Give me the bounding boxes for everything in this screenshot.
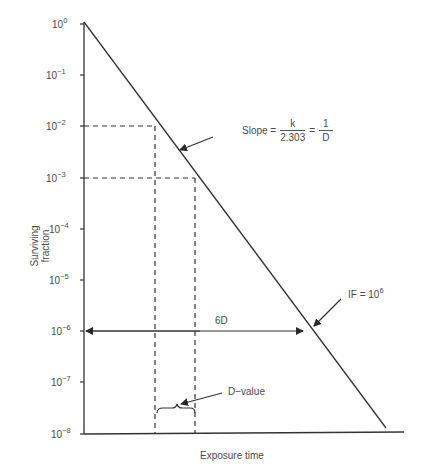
slope-fraction-d: 1 D bbox=[319, 117, 333, 144]
slope-equals: = bbox=[309, 125, 315, 136]
y-tick-label-6: 10−6 bbox=[51, 323, 71, 337]
y-tick-label-2: 10−2 bbox=[46, 118, 66, 132]
y-tick-label-0: 100 bbox=[52, 16, 67, 30]
y-tick-label-3: 10−3 bbox=[46, 170, 66, 184]
if-arrow bbox=[314, 299, 341, 326]
y-tick-label-7: 10−7 bbox=[51, 374, 71, 388]
d-value-label: D−value bbox=[228, 386, 265, 397]
if-label: IF = 106 bbox=[348, 286, 384, 300]
slope-arrow bbox=[180, 137, 213, 150]
dashed-guides bbox=[84, 126, 195, 434]
x-axis-label: Exposure time bbox=[200, 450, 264, 461]
y-tick-label-8: 10−8 bbox=[51, 426, 71, 440]
x-axis bbox=[84, 432, 404, 434]
y-axis-label: Surviving fraction bbox=[29, 216, 51, 276]
slope-prefix: Slope = bbox=[242, 125, 276, 136]
y-tick-label-5: 10−5 bbox=[49, 272, 69, 286]
slope-formula: Slope = k 2.303 = 1 D bbox=[242, 117, 333, 144]
d-value-brace bbox=[157, 404, 195, 413]
slope-fraction-k: k 2.303 bbox=[280, 117, 305, 144]
survival-curve bbox=[84, 22, 386, 428]
six-d-label: 6D bbox=[215, 315, 228, 326]
d-value-arrow bbox=[181, 393, 222, 404]
y-tick-label-4: 10−4 bbox=[49, 221, 69, 235]
y-tick-label-1: 10−1 bbox=[46, 67, 66, 81]
